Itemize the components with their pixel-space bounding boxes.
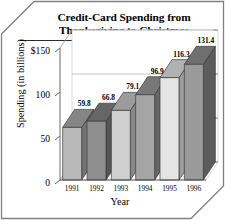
x-tick-label: 1992 (83, 184, 110, 193)
bar-value-label: 116.3 (166, 50, 197, 59)
x-tick-label: 1995 (156, 184, 183, 193)
chart-figure: Credit-Card Spending from Thanksgiving t… (0, 0, 225, 220)
plot-area: Spending (in billions) Year 050100$15059… (0, 0, 225, 220)
bar-value-label: 96.9 (142, 67, 173, 76)
y-tick-label: 50 (0, 133, 50, 144)
x-tick-label: 1994 (132, 184, 159, 193)
bar-value-label: 131.4 (190, 36, 221, 45)
x-tick-label: 1991 (59, 184, 86, 193)
x-axis-title: Year (60, 196, 180, 207)
y-tick-label: 0 (0, 177, 50, 188)
bar-value-label: 66.8 (93, 93, 124, 102)
bar-1996 (184, 46, 215, 180)
bar-value-label: 79.1 (117, 82, 148, 91)
x-tick-label: 1993 (107, 184, 134, 193)
y-tick-label: $150 (0, 45, 50, 56)
x-tick-label: 1996 (180, 184, 207, 193)
y-tick-label: 100 (0, 89, 50, 100)
